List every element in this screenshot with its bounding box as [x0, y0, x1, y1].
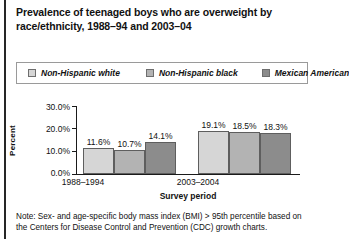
legend-swatch-icon: [262, 69, 270, 77]
bar-value-label: 18.5%: [232, 121, 256, 131]
legend-item-non-hispanic-white[interactable]: Non-Hispanic white: [28, 68, 120, 78]
legend-label: Non-Hispanic white: [41, 68, 120, 78]
chart-note: Note: Sex- and age-specific body mass in…: [16, 212, 314, 233]
bars-container: 11.6% 10.7% 14.1% 19.1% 18.5% 18.3%: [76, 106, 300, 174]
bar-value-label: 19.1%: [201, 120, 225, 130]
bar-value-label: 11.6%: [87, 137, 110, 147]
y-axis-title: Percent: [8, 113, 17, 169]
y-tick-label: 30.0%: [26, 102, 70, 112]
x-axis-line: [76, 174, 300, 175]
bar[interactable]: 14.1%: [145, 142, 176, 174]
y-axis-ticks: 30.0% 20.0% 10.0% 0.0%: [26, 92, 70, 174]
y-tick-label: 20.0%: [26, 124, 70, 134]
legend-label: Mexican American: [275, 68, 349, 78]
bar-value-label: 14.1%: [148, 131, 172, 141]
bar-value-label: 18.3%: [263, 122, 287, 132]
legend-swatch-icon: [146, 69, 154, 77]
bar[interactable]: 11.6%: [83, 148, 114, 174]
bar-value-label: 10.7%: [117, 139, 141, 149]
legend-swatch-icon: [28, 69, 36, 77]
bar[interactable]: 18.3%: [260, 133, 291, 175]
bar-group-1988-1994: 11.6% 10.7% 14.1%: [83, 106, 176, 174]
x-tick-label: 1988–1994: [43, 177, 123, 187]
legend-item-mexican-american[interactable]: Mexican American: [262, 68, 349, 78]
bar[interactable]: 18.5%: [229, 132, 260, 174]
legend-item-non-hispanic-black[interactable]: Non-Hispanic black: [146, 68, 238, 78]
legend-label: Non-Hispanic black: [159, 68, 238, 78]
x-tick-label: 2003–2004: [158, 177, 238, 187]
y-tick-label: 10.0%: [26, 146, 70, 156]
bar[interactable]: 19.1%: [198, 131, 229, 174]
plot-area: Percent 30.0% 20.0% 10.0% 0.0% 11.6% 10.…: [0, 92, 322, 192]
bar[interactable]: 10.7%: [114, 150, 145, 174]
bar-group-2003-2004: 19.1% 18.5% 18.3%: [198, 106, 291, 174]
chart-legend: Non-Hispanic white Non-Hispanic black Me…: [16, 62, 308, 84]
chart-title: Prevalence of teenaged boys who are over…: [16, 6, 308, 33]
x-axis-title: Survey period: [76, 191, 300, 201]
